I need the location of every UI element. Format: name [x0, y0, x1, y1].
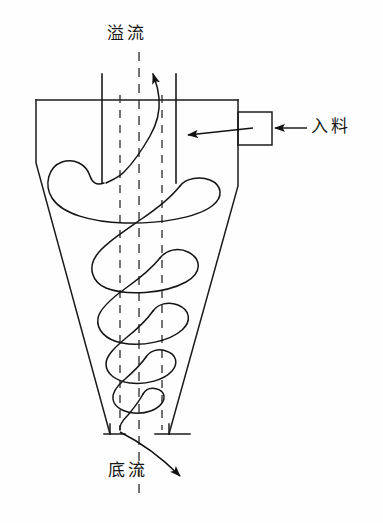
- shell-right-wall: [169, 100, 238, 434]
- overflow-core-flow-arrow: [106, 74, 159, 183]
- spiral-turn-1: [48, 161, 220, 223]
- spiral-turn-4: [106, 311, 176, 383]
- shell-left-wall: [36, 100, 110, 434]
- spiral-flow-group: [48, 74, 220, 430]
- hydrocyclone-schematic-svg: [0, 0, 383, 523]
- feed-entry-arrow: [188, 128, 253, 135]
- label-underflow: 底流: [108, 462, 148, 479]
- feed-arrow-group: [188, 128, 307, 135]
- label-feed: 入料: [311, 118, 351, 135]
- spiral-turn-3: [98, 258, 189, 344]
- label-overflow: 溢流: [107, 25, 147, 42]
- cyclone-diagram-canvas: 溢流 入料 底流: [0, 0, 383, 523]
- spiral-turn-2: [92, 186, 198, 293]
